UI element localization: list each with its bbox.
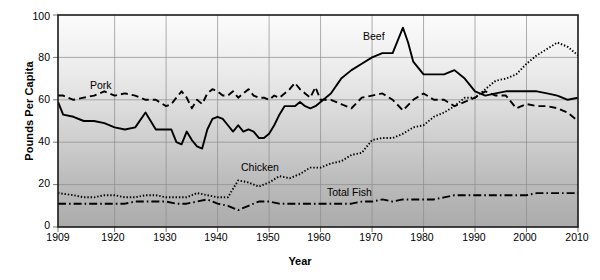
plot-area xyxy=(0,0,600,280)
series-label-beef: Beef xyxy=(363,30,385,42)
chart-container: Pounds Per Capita 100 80 60 40 20 0 1909… xyxy=(0,0,600,280)
series-label-total-fish: Total Fish xyxy=(327,186,372,198)
series-label-pork: Pork xyxy=(90,79,112,91)
series-label-chicken: Chicken xyxy=(241,161,279,173)
